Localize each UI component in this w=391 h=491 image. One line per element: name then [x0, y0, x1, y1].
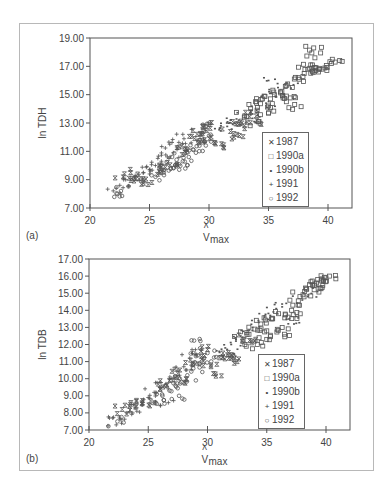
- y-axis-title: ln TDH: [37, 108, 48, 139]
- legend-item-1990a: □1990a: [267, 149, 304, 163]
- x-marker-icon: ✕: [263, 358, 271, 371]
- legend-label: 1991: [272, 400, 294, 411]
- x-axis-subscript: max: [210, 234, 229, 245]
- legend-label: 1990b: [272, 386, 300, 397]
- y-tick-label: 7.00: [65, 203, 85, 214]
- legend-label: 1990a: [276, 150, 304, 161]
- x-marker-icon: ✕: [267, 136, 275, 149]
- legend-a: ✕1987□1990a•1990b+1991○1992: [262, 132, 309, 207]
- y-tick-label: 7.00: [64, 425, 84, 436]
- y-axis-title: ln TDB: [37, 329, 48, 360]
- legend-item-1992: ○1992: [263, 413, 300, 427]
- scatter-plot-b: 7.008.009.0010.0011.0012.0013.0014.0015.…: [20, 248, 373, 470]
- y-tick-label: 17.00: [58, 254, 83, 265]
- y-tick-label: 12.00: [58, 339, 83, 350]
- x-axis-title: V: [202, 454, 209, 465]
- square-marker-icon: □: [263, 372, 271, 385]
- legend-label: 1990b: [276, 164, 304, 175]
- legend-label: 1987: [272, 358, 294, 369]
- y-tick-label: 11.00: [60, 146, 85, 157]
- legend-item-1992: ○1992: [267, 191, 304, 205]
- plus-marker-icon: +: [267, 178, 275, 191]
- x-tick-label: 35: [261, 437, 273, 448]
- legend-b: ✕1987□1990a•1990b+1991○1992: [258, 354, 305, 429]
- y-tick-label: 13.00: [58, 322, 83, 333]
- y-tick-label: 8.00: [64, 407, 84, 418]
- legend-label: 1992: [276, 192, 298, 203]
- y-tick-label: 9.00: [65, 174, 85, 185]
- y-tick-label: 11.00: [59, 356, 84, 367]
- panel-a: 7.009.0011.0013.0015.0017.0019.002025303…: [19, 23, 374, 250]
- legend-label: 1987: [276, 136, 298, 147]
- plus-marker-icon: +: [263, 400, 271, 413]
- y-tick-label: 13.00: [59, 118, 84, 129]
- dot-marker-icon: •: [267, 164, 275, 177]
- square-marker-icon: □: [267, 150, 275, 163]
- circle-marker-icon: ○: [263, 414, 271, 427]
- y-tick-label: 15.00: [58, 288, 83, 299]
- legend-item-1987: ✕1987: [267, 135, 304, 149]
- x-axis-subscript: max: [209, 456, 228, 467]
- y-tick-label: 14.00: [58, 305, 83, 316]
- legend-label: 1990a: [272, 372, 300, 383]
- legend-item-1987: ✕1987: [263, 357, 300, 371]
- x-tick-label: 20: [83, 437, 95, 448]
- legend-item-1991: +1991: [267, 177, 304, 191]
- legend-item-1990b: •1990b: [263, 385, 300, 399]
- y-tick-label: 15.00: [59, 89, 84, 100]
- legend-label: 1991: [276, 178, 298, 189]
- x-tick-label: 25: [143, 437, 155, 448]
- x-tick-label: 40: [320, 437, 332, 448]
- x-tick-label: 40: [322, 215, 334, 226]
- scatter-plot-a: 7.009.0011.0013.0015.0017.0019.002025303…: [20, 24, 373, 249]
- x-axis-title: V: [203, 232, 210, 243]
- y-tick-label: 10.00: [58, 373, 83, 384]
- x-tick-label: 25: [144, 215, 156, 226]
- panel-label-a: (a): [26, 230, 38, 241]
- y-tick-label: 17.00: [59, 61, 84, 72]
- legend-item-1991: +1991: [263, 399, 300, 413]
- dot-marker-icon: •: [263, 386, 271, 399]
- y-tick-label: 9.00: [64, 390, 84, 401]
- legend-item-1990a: □1990a: [263, 371, 300, 385]
- x-tick-label: 35: [263, 215, 275, 226]
- legend-item-1990b: •1990b: [267, 163, 304, 177]
- panel-label-b: (b): [26, 453, 38, 464]
- x-tick-label: 20: [84, 215, 96, 226]
- y-tick-label: 16.00: [58, 271, 83, 282]
- y-tick-label: 19.00: [59, 33, 84, 44]
- panel-b: 7.008.009.0010.0011.0012.0013.0014.0015.…: [19, 248, 374, 471]
- circle-marker-icon: ○: [267, 192, 275, 205]
- legend-label: 1992: [272, 414, 294, 425]
